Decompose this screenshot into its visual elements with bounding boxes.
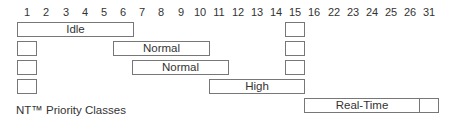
priority-class-idle: Idle	[17, 22, 134, 37]
axis-tick-label: 4	[75, 6, 95, 18]
axis-tick-label: 13	[247, 6, 267, 18]
priority-class-real-time: Real-Time	[304, 98, 420, 113]
priority-level-box	[419, 98, 439, 113]
axis-tick-label: 7	[132, 6, 152, 18]
axis-tick-label: 22	[324, 6, 344, 18]
axis-tick-label: 26	[400, 6, 420, 18]
priority-level-box	[17, 60, 37, 75]
axis-tick-label: 8	[151, 6, 171, 18]
priority-class-normal: Normal	[113, 41, 210, 56]
priority-class-high: High	[209, 79, 305, 94]
axis-tick-label: 11	[209, 6, 229, 18]
axis-tick-label: 24	[362, 6, 382, 18]
axis-tick-label: 1	[17, 6, 37, 18]
axis-tick-label: 12	[228, 6, 248, 18]
axis-tick-label: 6	[113, 6, 133, 18]
axis-tick-label: 23	[343, 6, 363, 18]
priority-level-box	[285, 22, 305, 37]
axis-tick-label: 5	[94, 6, 114, 18]
axis-tick-label: 25	[381, 6, 401, 18]
axis-tick-label: 10	[190, 6, 210, 18]
axis-tick-label: 14	[266, 6, 286, 18]
priority-level-box	[285, 41, 305, 56]
diagram-caption: NT™ Priority Classes	[16, 104, 126, 116]
axis-tick-label: 3	[56, 6, 76, 18]
priority-level-box	[17, 79, 37, 94]
priority-class-normal: Normal	[132, 60, 229, 75]
axis-tick-label: 9	[171, 6, 191, 18]
priority-level-box	[17, 41, 37, 56]
axis-tick-label: 2	[36, 6, 56, 18]
axis-tick-label: 31	[419, 6, 439, 18]
axis-tick-label: 15	[285, 6, 305, 18]
axis-tick-label: 16	[304, 6, 324, 18]
priority-level-box	[285, 60, 305, 75]
